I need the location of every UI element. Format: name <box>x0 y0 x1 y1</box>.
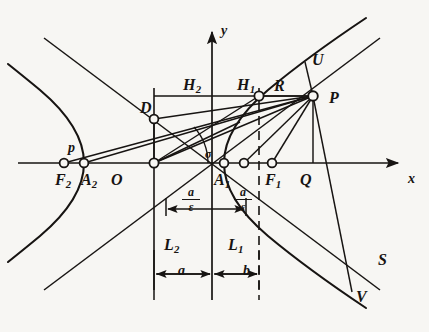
label-Q: Q <box>300 172 312 188</box>
axes-group <box>18 32 398 300</box>
fraction-a-over-epsilon-right: a ε <box>234 186 252 213</box>
point-marker-A2 <box>80 159 89 168</box>
fraction-left-denominator: ε <box>182 201 200 214</box>
point-marker-A1 <box>220 159 229 168</box>
hyperbola-geometry-figure: y x H2 H1 R U P D p F2 A2 O A1 F1 Q L2 <box>0 0 429 332</box>
point-marker-F2 <box>60 159 69 168</box>
label-L1: L1 <box>228 237 243 255</box>
fraction-right-denominator: ε <box>234 201 252 214</box>
fraction-right-numerator: a <box>234 186 252 199</box>
label-A1: A1 <box>214 172 230 190</box>
label-y-axis: y <box>221 24 227 38</box>
label-O: O <box>111 172 123 188</box>
label-S: S <box>378 252 387 268</box>
line-P-to-V <box>313 96 352 292</box>
label-H1: H1 <box>237 77 255 95</box>
label-F2-subscript: 2 <box>66 178 71 190</box>
line-F2-to-P <box>64 96 313 163</box>
label-H1-subscript: 1 <box>250 83 255 95</box>
fraction-left-numerator: a <box>182 186 200 199</box>
label-A2-subscript: 2 <box>92 178 97 190</box>
hyperbola-left-branch-lower <box>8 163 84 262</box>
label-L1-subscript: 1 <box>238 243 243 255</box>
line-D-to-P <box>154 96 313 119</box>
label-V: V <box>356 289 367 305</box>
label-P: P <box>329 90 339 106</box>
label-L2-subscript: 2 <box>174 243 179 255</box>
line-O-to-P <box>154 96 313 163</box>
label-L2: L2 <box>164 237 179 255</box>
point-marker-O <box>149 158 158 167</box>
point-marker-R <box>254 91 263 100</box>
point-marker-Q <box>268 159 277 168</box>
point-marker-F1 <box>240 159 249 168</box>
point-marker-P <box>308 91 318 101</box>
figure-canvas <box>0 0 429 332</box>
label-U: U <box>312 52 324 68</box>
label-H2: H2 <box>183 77 201 95</box>
label-R: R <box>274 78 285 94</box>
label-p: p <box>68 141 75 155</box>
label-H2-subscript: 2 <box>196 83 201 95</box>
label-F1: F1 <box>265 172 281 190</box>
label-A2: A2 <box>81 172 97 190</box>
label-dimension-a: a <box>178 264 185 278</box>
fraction-a-over-epsilon-left: a ε <box>182 186 200 213</box>
label-D: D <box>140 100 152 116</box>
label-A1-subscript: 1 <box>225 178 230 190</box>
label-F2: F2 <box>55 172 71 190</box>
label-dimension-b: b <box>243 264 250 278</box>
label-F1-subscript: 1 <box>276 178 281 190</box>
label-x-axis: x <box>408 172 415 186</box>
label-sigma-angle: σ <box>205 148 211 160</box>
